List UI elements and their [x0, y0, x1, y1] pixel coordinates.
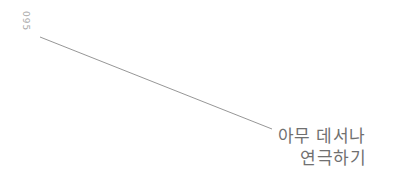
chapter-title-line-2: 연극하기 — [278, 147, 366, 169]
chapter-title-line-1: 아무 데서나 — [278, 125, 366, 147]
chapter-title: 아무 데서나 연극하기 — [278, 125, 366, 169]
